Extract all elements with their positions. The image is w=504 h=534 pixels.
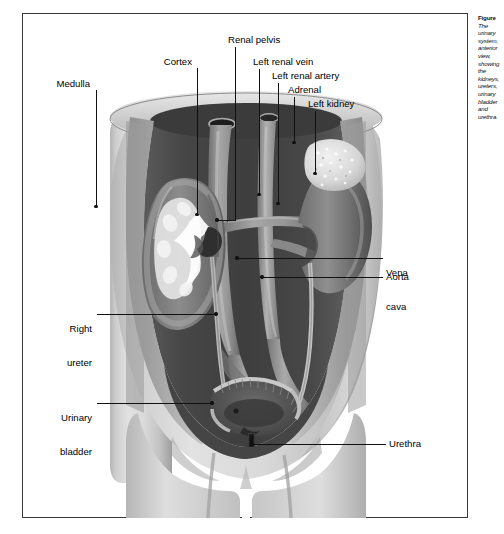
- label-urinary-bladder-line1: Urinary: [24, 412, 92, 423]
- leader-urinary-bladder: [97, 403, 212, 404]
- label-left-renal-artery: Left renal artery: [272, 70, 382, 81]
- leader-adrenal: [294, 97, 295, 143]
- figure-caption-line: urinary: [478, 90, 504, 98]
- label-aorta: Aorta: [386, 271, 438, 282]
- figure-caption-line: bladder and: [478, 98, 504, 113]
- label-urinary-bladder-line2: bladder: [24, 446, 92, 457]
- leader-right-ureter: [97, 314, 216, 315]
- figure-caption-title: Figure: [478, 14, 504, 22]
- label-medulla: Medulla: [30, 78, 90, 89]
- label-urethra: Urethra: [389, 438, 449, 449]
- label-adrenal: Adrenal: [288, 84, 350, 95]
- leader-urethra: [252, 444, 386, 445]
- leader-left-renal-artery: [278, 83, 279, 204]
- figure-caption-line: kidneys,: [478, 75, 504, 83]
- leader-dot-aorta: [260, 275, 263, 278]
- leader-left-kidney: [315, 111, 316, 174]
- label-vena-cava-line2: cava: [386, 301, 446, 312]
- label-vena-cava: Vena cava: [386, 244, 446, 335]
- figure-caption-line: anterior view,: [478, 44, 504, 59]
- label-left-renal-vein: Left renal vein: [253, 56, 355, 67]
- label-urinary-bladder: Urinary bladder: [24, 389, 92, 480]
- leader-dot-vena-cava: [235, 256, 238, 259]
- leader-medulla: [96, 90, 97, 207]
- leader-dot-renal-pelvis: [215, 218, 218, 221]
- leader-cortex: [197, 68, 198, 215]
- label-cortex: Cortex: [140, 56, 192, 67]
- label-left-kidney: Left kidney: [308, 98, 384, 109]
- leader-left-renal-vein: [259, 69, 260, 195]
- figure-caption: Figure The urinary system, anterior view…: [478, 14, 504, 120]
- label-renal-pelvis: Renal pelvis: [228, 34, 318, 45]
- leader-dot-urinary-bladder: [210, 401, 213, 404]
- leader-dot-urethra: [250, 442, 253, 445]
- figure-caption-line: urethra.: [478, 113, 504, 121]
- figure-caption-line: system,: [478, 37, 504, 45]
- leader-vena-cava: [237, 258, 383, 259]
- figure-caption-line: showing the: [478, 60, 504, 75]
- leader-dot-right-ureter: [214, 312, 217, 315]
- label-right-ureter: Right ureter: [30, 300, 92, 391]
- figure-caption-line: ureters,: [478, 82, 504, 90]
- leader-renal-pelvis: [235, 47, 236, 220]
- leader-aorta: [262, 277, 383, 278]
- figure-caption-line: The urinary: [478, 22, 504, 37]
- leader-renal-pelvis-h: [217, 220, 236, 221]
- label-right-ureter-line2: ureter: [30, 357, 92, 368]
- label-right-ureter-line1: Right: [30, 323, 92, 334]
